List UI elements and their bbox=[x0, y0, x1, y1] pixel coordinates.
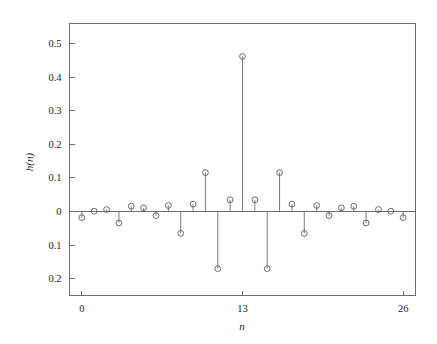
stem-plot: 0.50.40.30.20.100.10.2 01326 h(n) n bbox=[0, 0, 437, 344]
y-tick-label: 0 bbox=[56, 206, 61, 217]
stem-point bbox=[227, 197, 233, 212]
stem-point bbox=[141, 205, 147, 212]
stem-point bbox=[240, 54, 246, 212]
x-tick-label: 26 bbox=[398, 303, 409, 314]
stem-point bbox=[190, 201, 196, 211]
y-tick-label: 0.1 bbox=[48, 240, 61, 251]
y-axis-ticks: 0.50.40.30.20.100.10.2 bbox=[48, 38, 74, 284]
y-tick-label: 0.3 bbox=[48, 105, 61, 116]
stem-point bbox=[264, 212, 270, 272]
stem-point bbox=[252, 197, 258, 212]
x-tick-label: 13 bbox=[237, 303, 248, 314]
figure-container: 0.50.40.30.20.100.10.2 01326 h(n) n bbox=[0, 0, 437, 344]
stem-series bbox=[79, 54, 406, 272]
stem-point bbox=[165, 203, 171, 212]
x-axis-title: n bbox=[239, 320, 245, 332]
stem-point bbox=[289, 201, 295, 211]
stem-point bbox=[338, 205, 344, 212]
stem-point bbox=[178, 212, 184, 237]
y-tick-label: 0.5 bbox=[48, 38, 61, 49]
y-tick-label: 0.2 bbox=[48, 139, 61, 150]
stem-point bbox=[363, 212, 369, 226]
y-tick-label: 0.4 bbox=[48, 72, 62, 83]
x-axis-ticks: 01326 bbox=[79, 291, 408, 314]
y-tick-label: 0.2 bbox=[48, 273, 61, 284]
stem-point bbox=[203, 170, 209, 212]
y-tick-label: 0.1 bbox=[48, 172, 61, 183]
stem-point bbox=[153, 212, 159, 219]
y-axis-title: h(n) bbox=[23, 153, 36, 172]
stem-point bbox=[400, 212, 406, 221]
stem-point bbox=[351, 203, 357, 211]
stem-point bbox=[128, 203, 134, 211]
stem-point bbox=[215, 212, 221, 272]
stem-point bbox=[326, 212, 332, 219]
stem-point bbox=[79, 212, 85, 221]
stem-point bbox=[277, 170, 283, 212]
stem-point bbox=[314, 203, 320, 212]
stem-point bbox=[116, 212, 122, 226]
x-tick-label: 0 bbox=[79, 303, 84, 314]
stem-point bbox=[301, 212, 307, 237]
